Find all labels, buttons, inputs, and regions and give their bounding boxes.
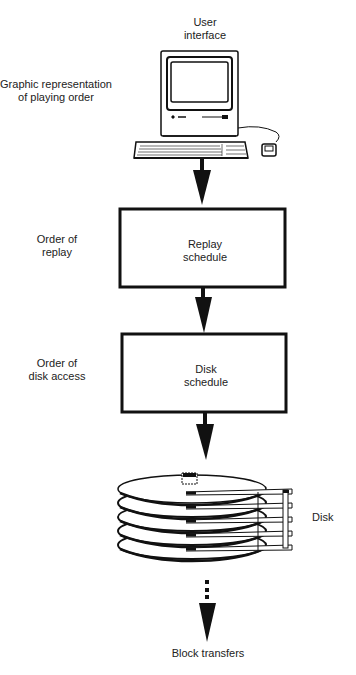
box-line: Disk [171,363,241,376]
arrow-down-icon [195,287,212,333]
disk-stack-icon [118,473,292,561]
disk-label: Disk [312,511,342,524]
box-line: schedule [171,376,241,389]
box-line: Replay [170,238,240,251]
block-transfers-label: Block transfers [160,647,256,660]
disk-schedule-text: Disk schedule [171,363,241,389]
arrow-down-icon [199,580,216,642]
arrow-down-icon [193,158,211,205]
computer-icon [134,51,279,158]
arrow-down-icon [196,412,214,460]
box-line: schedule [170,251,240,264]
replay-schedule-text: Replay schedule [170,238,240,264]
diagram-graphics [0,0,356,675]
